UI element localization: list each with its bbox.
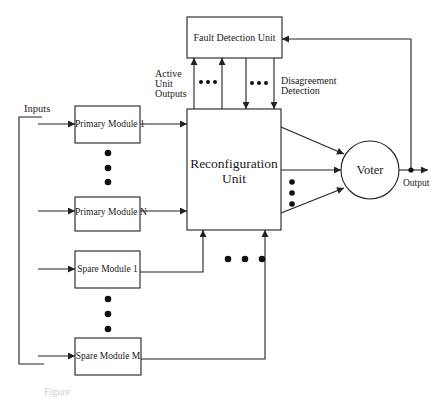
spare-module-m-label: Spare Module M <box>75 351 141 361</box>
ellipsis-dot <box>242 256 249 263</box>
ellipsis-dot <box>289 201 295 207</box>
ellipsis-dot <box>105 179 112 186</box>
ellipsis-dot <box>105 311 112 318</box>
ellipsis-dot <box>199 80 203 84</box>
ellipsis-dot <box>213 80 217 84</box>
reconfiguration-unit-label-line2: Unit <box>187 171 281 186</box>
ellipsis-dot <box>250 81 254 85</box>
active-unit-outputs-line3: Outputs <box>155 89 187 99</box>
ellipsis-dot <box>289 190 295 196</box>
spare-module-1-label: Spare Module 1 <box>75 264 140 274</box>
inputs-bracket <box>19 117 44 364</box>
ellipsis-dot <box>289 179 295 185</box>
output-label: Output <box>403 178 429 188</box>
disagreement-detection-label: Disagreement Detection <box>281 76 337 96</box>
ellipsis-dot <box>257 81 261 85</box>
active-unit-outputs-label: Active Unit Outputs <box>155 69 187 99</box>
ellipsis-dot <box>105 150 112 157</box>
ellipsis-dot <box>105 165 112 172</box>
ellipsis-dot <box>105 296 112 303</box>
ellipsis-dot <box>206 80 210 84</box>
ellipsis-dot <box>264 81 268 85</box>
ellipsis-dot <box>225 256 232 263</box>
reconfiguration-unit-label: Reconfiguration Unit <box>187 156 281 186</box>
disagreement-detection-line2: Detection <box>281 86 337 96</box>
fault-detection-unit-label: Fault Detection Unit <box>187 32 282 43</box>
voter-label: Voter <box>341 163 399 178</box>
figure-caption: Figure <box>44 386 70 397</box>
ellipsis-dot <box>105 326 112 333</box>
ru-to-voter-arrow-top <box>281 127 344 154</box>
output-junction-dot <box>408 167 413 172</box>
reconfiguration-unit-label-line1: Reconfiguration <box>187 156 281 171</box>
ellipsis-dot <box>259 256 266 263</box>
inputs-label: Inputs <box>24 104 50 114</box>
sm1-to-ru-arrow <box>140 230 203 272</box>
primary-module-n-label: Primary Module N <box>75 207 141 217</box>
primary-module-1-label: Primary Module 1 <box>75 119 141 129</box>
